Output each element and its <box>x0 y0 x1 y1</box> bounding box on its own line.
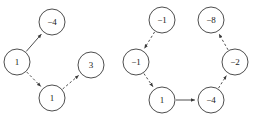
graph-node-R4[interactable]: 1 <box>149 87 175 113</box>
graph-edge-R2-to-R4 <box>144 74 153 87</box>
node-label-R3: −2 <box>230 57 240 67</box>
left-directed-graph-edges <box>26 34 78 89</box>
diagram-canvas: −4131−1−8−1−21−4 <box>0 0 253 119</box>
right-directed-graph-nodes: −1−8−1−21−4 <box>123 7 248 113</box>
graph-edge-R3-to-R1 <box>219 34 228 50</box>
graph-node-L2[interactable]: 3 <box>78 52 104 78</box>
graph-node-L3[interactable]: 1 <box>39 85 65 111</box>
graph-node-R2[interactable]: −1 <box>123 49 149 75</box>
node-label-R5: −4 <box>206 95 216 105</box>
graph-edge-R5-to-R3 <box>218 76 226 88</box>
graph-node-L0[interactable]: −4 <box>39 9 65 35</box>
graph-edge-L1-to-L0 <box>26 34 41 51</box>
graph-diagram-svg: −4131−1−8−1−21−4 <box>0 0 253 119</box>
nodes-layer: −4131−1−8−1−21−4 <box>4 7 248 113</box>
graph-edge-L1-to-L3 <box>27 72 41 86</box>
node-label-R0: −1 <box>157 15 167 25</box>
graph-node-R3[interactable]: −2 <box>222 49 248 75</box>
node-label-R4: 1 <box>160 95 165 105</box>
graph-node-R5[interactable]: −4 <box>198 87 224 113</box>
node-label-R1: −8 <box>206 15 216 25</box>
graph-edge-L3-to-L2 <box>63 75 79 89</box>
node-label-L3: 1 <box>50 93 55 103</box>
node-label-L1: 1 <box>15 57 20 67</box>
graph-edge-R0-to-R2 <box>145 32 155 48</box>
graph-node-L1[interactable]: 1 <box>4 49 30 75</box>
node-label-L0: −4 <box>47 17 57 27</box>
left-directed-graph-nodes: −4131 <box>4 9 104 111</box>
node-label-L2: 3 <box>89 60 94 70</box>
graph-node-R0[interactable]: −1 <box>149 7 175 33</box>
node-label-R2: −1 <box>131 57 141 67</box>
graph-node-R1[interactable]: −8 <box>198 7 224 33</box>
